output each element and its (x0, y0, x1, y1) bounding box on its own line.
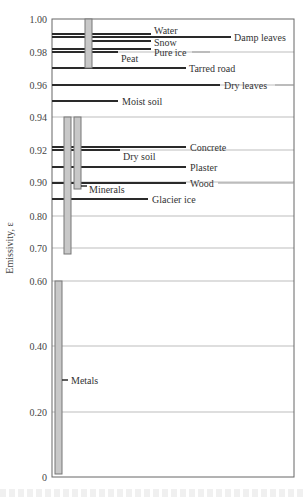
tick-0-20: 0.20 (30, 407, 48, 418)
y-axis-title: Emissivity, ε (4, 222, 15, 273)
tick-0-94: 0.94 (30, 112, 48, 123)
label-water: Water (154, 25, 178, 36)
range-bar-wide (64, 117, 71, 254)
range-bar-top (85, 19, 92, 68)
label-peat: Peat (121, 53, 138, 64)
label-pure-ice: Pure ice (154, 47, 187, 58)
tick-0-92: 0.92 (30, 145, 48, 156)
label-moist-soil: Moist soil (122, 96, 163, 107)
label-tarred-road: Tarred road (189, 63, 235, 74)
label-metals: Metals (71, 375, 98, 386)
label-minerals: Minerals (89, 184, 125, 195)
tick-0-40: 0.40 (30, 341, 48, 352)
label-damp-leaves: Damp leaves (234, 32, 286, 43)
label-dry-soil: Dry soil (123, 151, 156, 162)
gridlines (52, 52, 294, 412)
tick-0-96: 0.96 (30, 80, 48, 91)
label-plaster: Plaster (190, 162, 218, 173)
label-dry-leaves: Dry leaves (224, 80, 267, 91)
tick-0-98: 0.98 (30, 47, 48, 58)
tick-0-90: 0.90 (30, 177, 48, 188)
label-glacier-ice: Glacier ice (152, 194, 196, 205)
emissivity-chart: 1.00 0.98 0.96 0.94 0.92 0.90 0.80 0.70 … (0, 0, 305, 497)
label-concrete: Concrete (190, 142, 227, 153)
label-wood: Wood (190, 178, 214, 189)
tick-0-60: 0.60 (30, 276, 48, 287)
range-bar-minerals (74, 117, 81, 189)
y-tick-labels: 1.00 0.98 0.96 0.94 0.92 0.90 0.80 0.70 … (30, 14, 48, 483)
clipped-caption (0, 489, 305, 497)
material-labels: Water Damp leaves Snow Pure ice Peat Tar… (71, 25, 286, 386)
tick-0: 0 (42, 472, 47, 483)
tick-0-80: 0.80 (30, 211, 48, 222)
range-bars (55, 19, 92, 474)
range-bar-metals (55, 281, 62, 474)
tick-1-00: 1.00 (30, 14, 48, 25)
tick-0-70: 0.70 (30, 243, 48, 254)
